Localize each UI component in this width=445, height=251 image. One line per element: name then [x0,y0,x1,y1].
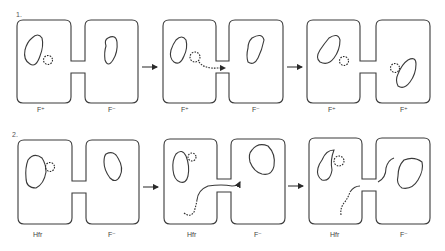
transferred-strand-in-recipient [378,158,394,182]
donor-chromosome [170,37,186,63]
label-f-minus: F⁻ [252,106,260,113]
transferred-dna-dashed [341,192,350,215]
label-f-plus: F⁺ [328,106,336,113]
f-plasmid [44,56,53,65]
donor-cell [307,20,430,103]
row-1-number: 1. [16,11,22,18]
hfr-cell [309,138,430,224]
f-plasmid [340,57,349,66]
chromosome-strand [350,186,360,192]
plasmid-transfer-strand [199,62,225,68]
donor-chromosome [318,35,341,63]
label-hfr: Hfr [330,231,340,238]
recipient-chromosome [398,158,423,188]
row2-panel3-mating-pair [309,138,430,224]
row2-panel1-mating-pair [18,140,139,224]
f-plasmid [190,52,200,62]
hfr-chromosome [173,151,189,182]
label-hfr: Hfr [33,231,43,238]
conjugation-diagram: 1. F⁺ F⁻ F⁺ F⁻ F⁺ F⁺ 2. Hfr F⁻ [0,0,445,251]
label-f-plus: F⁺ [400,106,408,113]
label-f-minus: F⁻ [108,231,116,238]
row1-panel1-mating-pair [17,20,138,103]
integrated-f-factor [334,156,344,166]
integrated-f-factor [46,163,55,172]
donor-cell [17,20,138,103]
label-f-plus: F⁺ [37,106,45,113]
hfr-chromosome [318,150,335,180]
integrated-f-factor [188,153,196,161]
label-f-minus: F⁻ [400,231,408,238]
chromosome-transfer-strand [197,182,240,200]
recipient-chromosome [249,145,274,175]
label-f-plus: F⁺ [181,106,189,113]
row-2-number: 2. [12,131,18,138]
row2-panel2-mating-pair [164,139,285,224]
label-f-minus: F⁻ [254,231,262,238]
label-f-minus: F⁻ [108,106,116,113]
new-f-plasmid [391,64,400,73]
hfr-cell [18,140,139,224]
hfr-chromosome [26,155,46,188]
label-hfr: Hfr [187,231,197,238]
row1-panel2-mating-pair [163,20,283,103]
recipient-chromosome [105,37,118,64]
recipient-chromosome [104,153,122,181]
donor-chromosome [25,35,43,65]
recipient-chromosome [247,35,264,63]
transferred-dna-dashed [184,200,197,215]
recipient-chromosome [397,59,417,88]
row1-panel3-mating-pair [307,20,430,103]
